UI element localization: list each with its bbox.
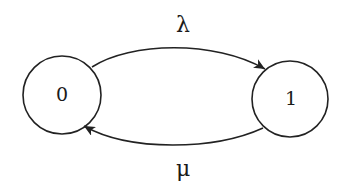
state-0-label: 0 bbox=[56, 85, 68, 104]
lambda-rate-label: λ bbox=[176, 14, 190, 36]
state-diagram: 0 1 λ μ bbox=[0, 0, 349, 189]
mu-rate-label: μ bbox=[176, 158, 190, 180]
transition-arrow-1-to-0 bbox=[84, 126, 263, 145]
transition-arrow-0-to-1 bbox=[92, 48, 265, 69]
state-1-label: 1 bbox=[285, 89, 297, 108]
